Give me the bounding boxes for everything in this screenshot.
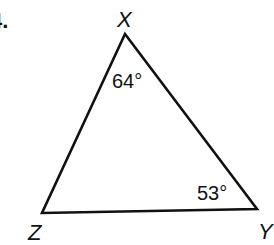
angle-label-y: 53° [197,182,227,204]
vertex-label-z: Z [27,220,43,245]
angle-label-x: 64° [112,70,142,92]
vertex-label-x: X [116,7,133,32]
vertex-label-y: Y [258,219,274,244]
triangle-figure: X Y Z 64° 53° [0,0,274,245]
